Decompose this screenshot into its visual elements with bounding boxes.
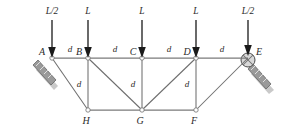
support-e-plate xyxy=(248,64,271,89)
load-arrow-C-head xyxy=(138,47,146,58)
load-arrow-C xyxy=(138,20,146,58)
load-arrow-D xyxy=(192,20,200,58)
load-label-E: L/2 xyxy=(241,6,255,16)
support-a-plate xyxy=(33,60,56,85)
load-arrow-A-head xyxy=(48,47,56,58)
joint-label-B: B xyxy=(76,46,82,57)
load-arrow-B-head xyxy=(84,47,92,58)
joint-F xyxy=(194,108,198,112)
load-arrow-D-head xyxy=(192,47,200,58)
joint-G xyxy=(140,108,144,112)
support-a xyxy=(33,60,58,90)
joint-label-D: D xyxy=(182,46,191,57)
support-e xyxy=(241,53,274,94)
joint-label-G: G xyxy=(136,115,143,126)
joint-label-C: C xyxy=(130,46,137,57)
load-label-C: L xyxy=(138,6,144,16)
member-F-E xyxy=(196,58,248,110)
member-A-H xyxy=(52,58,88,110)
truss-joints xyxy=(50,56,198,112)
load-label-D: L xyxy=(192,6,198,16)
dim-label-C-D: d xyxy=(167,44,172,54)
dim-label-D-F: d xyxy=(185,79,190,89)
dim-label-A-B: d xyxy=(68,44,73,54)
truss-diagram: L/2 L L L L/2 A B C D E H G F d d d d d … xyxy=(0,0,283,134)
dimension-labels: d d d d d d d xyxy=(68,44,225,89)
dim-label-B-H: d xyxy=(77,79,82,89)
joint-label-A: A xyxy=(38,46,46,57)
load-labels: L/2 L L L L/2 xyxy=(45,6,255,16)
joint-label-E: E xyxy=(255,46,262,57)
dim-label-B-C: d xyxy=(113,44,118,54)
joint-label-H: H xyxy=(81,115,90,126)
dim-label-C-G: d xyxy=(131,79,136,89)
load-arrow-B xyxy=(84,20,92,58)
load-arrow-A xyxy=(48,20,56,58)
load-label-B: L xyxy=(84,6,90,16)
load-arrow-E xyxy=(244,20,252,56)
joint-H xyxy=(86,108,90,112)
dim-label-D-E: d xyxy=(220,44,225,54)
truss-members xyxy=(52,58,248,110)
joint-label-F: F xyxy=(190,115,198,126)
load-label-A: L/2 xyxy=(45,6,59,16)
